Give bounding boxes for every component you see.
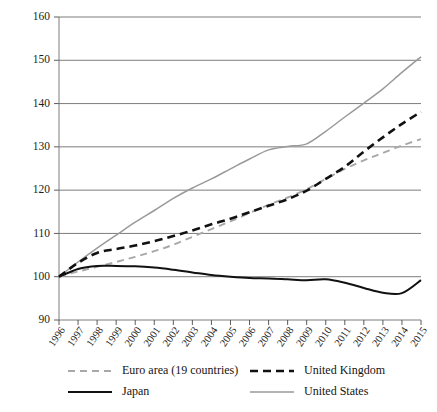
xtick-label-2000: 2000 [122,325,143,349]
xaxis-group: 1996199719981999200020012002200320042005… [46,320,429,348]
ytick-label-120: 120 [33,183,51,195]
ytick-label-90: 90 [39,313,51,325]
gridlines-group: 90100110120130140150160 [33,10,421,325]
xtick-label-2010: 2010 [313,325,334,349]
ytick-label-140: 140 [33,97,51,109]
ytick-label-150: 150 [33,53,51,65]
xtick-label-1996: 1996 [46,325,67,349]
xtick-label-2009: 2009 [294,325,315,349]
xtick-label-2008: 2008 [275,325,296,349]
ytick-label-110: 110 [33,227,50,239]
line-chart: 9010011012013014015016019961997199819992… [0,0,437,412]
xtick-label-2004: 2004 [199,324,220,348]
xtick-label-2014: 2014 [389,324,410,348]
xtick-label-2011: 2011 [332,325,353,348]
xtick-label-2007: 2007 [256,325,277,349]
xtick-label-2013: 2013 [370,325,391,349]
xtick-label-2005: 2005 [218,325,239,349]
xtick-label-2003: 2003 [179,325,200,349]
xtick-label-2015: 2015 [408,325,429,349]
legend-label-0: Euro area (19 countries) [122,363,238,377]
xtick-label-1997: 1997 [65,325,86,349]
ytick-label-160: 160 [33,10,51,22]
series-line-united-states [59,57,421,277]
xtick-label-2001: 2001 [141,325,162,349]
xtick-label-2002: 2002 [160,325,181,349]
chart-canvas: 9010011012013014015016019961997199819992… [0,0,437,412]
series-line-japan [59,266,421,295]
xtick-label-1999: 1999 [103,325,124,349]
xtick-label-2012: 2012 [351,325,372,349]
ytick-label-100: 100 [33,270,51,282]
legend-label-2: Japan [122,384,149,398]
series-line-euro-area-19-countries [59,139,421,277]
legend-label-1: United Kingdom [304,363,386,377]
xtick-label-2006: 2006 [237,325,258,349]
series-line-united-kingdom [59,112,421,277]
legend-label-3: United States [304,384,369,398]
legend: Euro area (19 countries)United KingdomJa… [68,363,386,398]
ytick-label-130: 130 [33,140,51,152]
xtick-label-1998: 1998 [84,325,105,349]
